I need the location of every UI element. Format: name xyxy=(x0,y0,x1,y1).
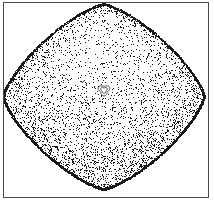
plot-frame xyxy=(3,2,209,198)
chaotic-sea-scatter xyxy=(4,3,208,197)
y-axis-label xyxy=(0,0,1,1)
figure-root: Poincare section / chaotic sea filling a… xyxy=(0,0,214,203)
x-axis-label xyxy=(0,0,1,1)
figure-caption xyxy=(0,0,1,1)
figure-title xyxy=(0,0,1,1)
figure-description: Poincare section / chaotic sea filling a… xyxy=(0,0,1,1)
